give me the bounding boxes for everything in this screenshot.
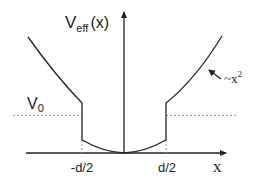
y-axis-label-sub: eff [76,22,89,34]
annotation-arrow [209,70,221,79]
left-tick-label: -d/2 [71,160,93,175]
svg-text:V0: V0 [27,95,44,114]
annotation-label: ~x [224,71,238,86]
y-axis-label: V [65,13,77,32]
y-axis-label-arg: (x) [90,14,109,31]
x-axis-label: x [213,157,222,176]
potential-right-outer [166,36,222,103]
right-tick-label: d/2 [158,160,176,175]
svg-text:Veff(x): Veff(x) [65,13,109,34]
v0-label-sub: 0 [38,102,44,114]
svg-text:~x2: ~x2 [224,69,242,86]
potential-left-outer [28,37,82,103]
v0-label: V [27,95,38,112]
potential-diagram: Veff(x) V0 -d/2 d/2 x ~x2 [0,0,257,180]
annotation-exponent: 2 [238,69,243,79]
